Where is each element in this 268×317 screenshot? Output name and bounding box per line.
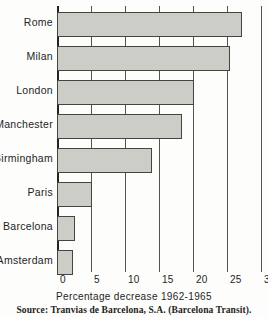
gridline-30 (261, 6, 262, 272)
category-label-milan: Milan (0, 50, 53, 62)
x-tick-label-0: 0 (60, 274, 66, 285)
category-label-barcelona: Barcelona (0, 220, 53, 232)
x-axis-title: Percentage decrease 1962-1965 (0, 291, 268, 302)
bar-manchester (57, 114, 182, 139)
category-label-london: London (0, 84, 53, 96)
category-label-manchester: Manchester (0, 118, 53, 130)
bar-paris (57, 182, 92, 207)
category-label-paris: Paris (0, 186, 53, 198)
category-label-birmingham: Birmingham (0, 152, 53, 164)
bar-milan (57, 46, 230, 71)
x-tick-label-5: 5 (94, 274, 100, 285)
bar-barcelona (57, 216, 75, 241)
x-tick-label-30: 30 (264, 274, 268, 285)
source-note: Source: Tranvias de Barcelona, S.A. (Bar… (0, 305, 268, 315)
category-label-rome: Rome (0, 16, 53, 28)
x-tick-label-20: 20 (196, 274, 208, 285)
x-tick-label-15: 15 (162, 274, 174, 285)
bar-birmingham (57, 148, 152, 173)
x-tick-label-25: 25 (230, 274, 242, 285)
category-label-amsterdam: Amsterdam (0, 254, 53, 266)
bar-rome (57, 12, 242, 37)
bar-chart-figure: Rome Milan London Manchester Birmingham … (0, 0, 268, 317)
plot-area (57, 6, 261, 272)
bar-london (57, 80, 194, 105)
x-tick-label-10: 10 (128, 274, 140, 285)
bar-amsterdam (57, 250, 73, 275)
